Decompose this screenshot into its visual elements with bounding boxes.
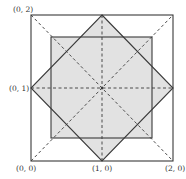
label-top-left: (0, 2) (13, 5, 33, 14)
label-bottom-left: (0, 0) (16, 164, 36, 173)
label-bottom-mid: (1, 0) (92, 164, 112, 173)
center-point (101, 87, 104, 90)
label-bottom-right: (2, 0) (165, 164, 185, 173)
label-mid-left: (0, 1) (9, 84, 29, 93)
geometry-diagram: (0, 2) (0, 1) (0, 0) (1, 0) (2, 0) (0, 0, 186, 179)
